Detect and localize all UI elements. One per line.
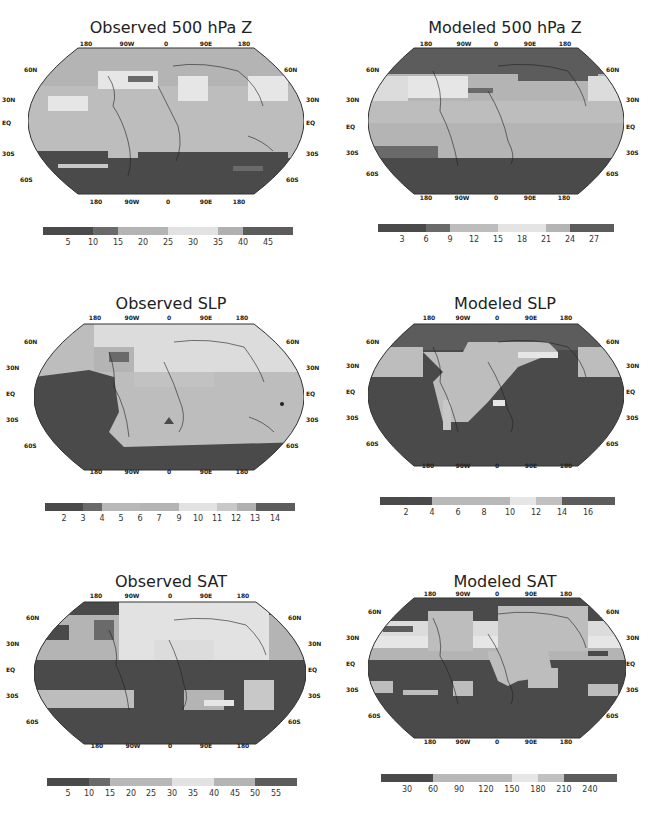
panel-title: Observed SAT <box>16 572 326 591</box>
map-modeled-slp <box>368 322 624 468</box>
panel-observed-500z: Observed 500 hPa Z 180 90W 0 90E 180 <box>16 4 326 274</box>
map-modeled-sat <box>368 596 626 740</box>
panel-observed-slp: Observed SLP 180 90W 0 90E 180 60N 30N E… <box>16 284 326 554</box>
colorbar <box>45 503 295 511</box>
panel-modeled-500z: Modeled 500 hPa Z 180 90W 0 90E 180 60N … <box>350 4 660 274</box>
panel-title: Modeled 500 hPa Z <box>350 18 660 37</box>
colorbar <box>381 774 617 782</box>
panel-modeled-slp: Modeled SLP 180 90W 0 90E 180 60N 30N EQ… <box>350 284 660 554</box>
panel-modeled-sat: Modeled SAT 180 90W 0 90E 180 <box>350 562 660 813</box>
map-modeled-500z <box>368 46 624 196</box>
panel-title: Modeled SLP <box>350 294 660 313</box>
map-observed-500z <box>28 46 304 196</box>
colorbar <box>378 224 614 232</box>
colorbar <box>43 227 293 235</box>
colorbar <box>380 497 615 505</box>
panel-observed-sat: Observed SAT 180 90W 0 90E 180 60N 30N E… <box>16 562 326 813</box>
panel-title: Modeled SAT <box>350 572 660 591</box>
panel-title: Observed SLP <box>16 294 326 313</box>
map-observed-sat <box>34 600 306 746</box>
map-observed-slp <box>34 322 304 472</box>
colorbar <box>47 778 297 786</box>
panel-title: Observed 500 hPa Z <box>16 18 326 37</box>
